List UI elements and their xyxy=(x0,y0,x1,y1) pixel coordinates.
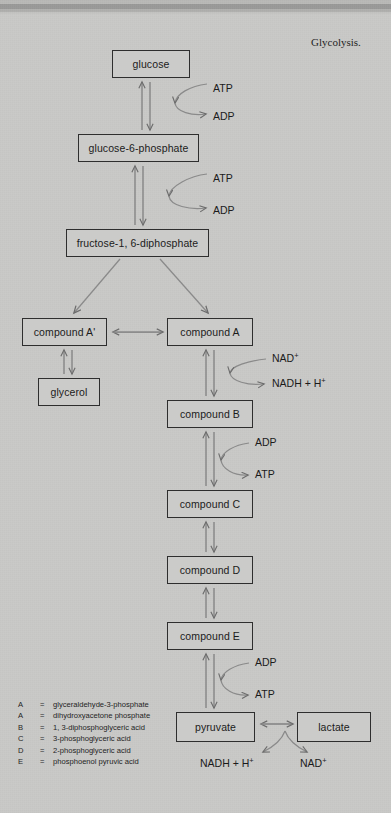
cofactor-nadh-h-plus-1-charge: + xyxy=(321,376,325,385)
legend-equals: = xyxy=(40,734,53,743)
node-lactate[interactable]: lactate xyxy=(297,712,371,742)
legend-value: 1, 3-diphosphoglyceric acid xyxy=(53,723,145,732)
node-glucose[interactable]: glucose xyxy=(112,50,190,78)
cofactor-adp-1: ADP xyxy=(213,110,235,122)
page-title: Glycolysis. xyxy=(311,36,361,48)
legend-value: 3-phosphoglyceric acid xyxy=(53,734,131,743)
node-compound-b[interactable]: compound B xyxy=(167,400,253,428)
cofactor-nadh-h-plus-1-text: NADH + H xyxy=(272,377,321,389)
cofactor-adp-1-text: ADP xyxy=(213,110,235,122)
scan-edge-band-4 xyxy=(0,12,391,14)
legend-row: B = 1, 3-diphosphoglyceric acid xyxy=(18,723,150,734)
cofactor-nad-plus-1-text: NAD xyxy=(272,352,294,364)
wire-fdp-to-compA xyxy=(160,259,208,313)
legend-value: glyceraldehyde-3-phosphate xyxy=(53,700,149,709)
legend-value: dihydroxyacetone phosphate xyxy=(53,711,150,720)
legend-key: A xyxy=(18,711,40,720)
legend-value: phosphoenol pyruvic acid xyxy=(53,757,139,766)
legend-row: E = phosphoenol pyruvic acid xyxy=(18,757,150,768)
legend-key: A xyxy=(18,700,40,709)
node-compound-a-prime[interactable]: compound A' xyxy=(22,318,107,346)
cofactor-nadh-h-plus-2-text: NADH + H xyxy=(200,757,249,769)
cofactor-adp-2: ADP xyxy=(213,204,235,216)
scan-edge-band-3 xyxy=(0,9,391,12)
node-fructose-1-6-diphosphate[interactable]: fructose-1, 6-diphosphate xyxy=(66,229,209,257)
cofactor-nad-plus-2: NAD+ xyxy=(300,757,327,769)
cofactor-nadh-h-plus-2: NADH + H+ xyxy=(200,757,254,769)
wire-adp3-in xyxy=(221,443,249,460)
cofactor-atp-4: ATP xyxy=(255,688,275,700)
scan-edge-band-1 xyxy=(0,0,391,4)
wire-fdp-to-compA-prime xyxy=(74,259,120,313)
cofactor-nad-plus-1-charge: + xyxy=(294,351,298,360)
glycolysis-diagram-page: Glycolysis. glucose glucose-6-phosphate … xyxy=(0,0,391,813)
cofactor-adp-3-text: ADP xyxy=(255,436,277,448)
node-compound-e[interactable]: compound E xyxy=(167,622,253,650)
node-glucose-6-phosphate[interactable]: glucose-6-phosphate xyxy=(78,134,199,162)
wire-adp1-out xyxy=(175,103,206,115)
cofactor-nad-plus-1: NAD+ xyxy=(272,352,299,364)
scan-edge-band-2 xyxy=(0,4,391,9)
legend-key: D xyxy=(18,746,40,755)
legend-key: B xyxy=(18,723,40,732)
cofactor-atp-1: ATP xyxy=(213,82,233,94)
node-compound-d[interactable]: compound D xyxy=(167,556,253,584)
node-compound-a[interactable]: compound A xyxy=(167,318,253,346)
legend-row: C = 3-phosphoglyceric acid xyxy=(18,734,150,745)
wire-nad1-in xyxy=(230,359,266,373)
node-compound-c[interactable]: compound C xyxy=(167,490,253,518)
cofactor-nad-plus-2-charge: + xyxy=(322,756,326,765)
wire-adp4-in xyxy=(221,663,249,680)
node-glycerol[interactable]: glycerol xyxy=(38,378,100,406)
legend-equals: = xyxy=(40,757,53,766)
cofactor-atp-3: ATP xyxy=(255,468,275,480)
wire-nadh2-out xyxy=(263,731,285,752)
cofactor-adp-2-text: ADP xyxy=(213,204,235,216)
wire-atp2-in xyxy=(169,174,207,196)
cofactor-atp-4-text: ATP xyxy=(255,688,275,700)
cofactor-atp-1-text: ATP xyxy=(213,82,233,94)
cofactor-adp-4: ADP xyxy=(255,656,277,668)
cofactor-atp-2-text: ATP xyxy=(213,172,233,184)
legend-equals: = xyxy=(40,711,53,720)
cofactor-adp-3: ADP xyxy=(255,436,277,448)
legend-row: A = glyceraldehyde-3-phosphate xyxy=(18,700,150,711)
legend-row: A = dihydroxyacetone phosphate xyxy=(18,711,150,722)
cofactor-atp-3-text: ATP xyxy=(255,468,275,480)
node-pyruvate[interactable]: pyruvate xyxy=(176,712,255,742)
compound-legend: A = glyceraldehyde-3-phosphate A = dihyd… xyxy=(18,700,150,768)
wire-adp2-out xyxy=(169,196,206,209)
legend-equals: = xyxy=(40,723,53,732)
wire-atp4-out xyxy=(221,680,248,695)
legend-equals: = xyxy=(40,746,53,755)
cofactor-nadh-h-plus-2-charge: + xyxy=(249,756,253,765)
legend-key: C xyxy=(18,734,40,743)
legend-equals: = xyxy=(40,700,53,709)
cofactor-nadh-h-plus-1: NADH + H+ xyxy=(272,377,326,389)
legend-key: E xyxy=(18,757,40,766)
wire-atp1-in xyxy=(175,84,207,103)
wire-nadh1-out xyxy=(230,373,264,384)
cofactor-nad-plus-2-text: NAD xyxy=(300,757,322,769)
legend-value: 2-phosphoglyceric acid xyxy=(53,746,131,755)
cofactor-adp-4-text: ADP xyxy=(255,656,277,668)
legend-row: D = 2-phosphoglyceric acid xyxy=(18,746,150,757)
wire-atp3-out xyxy=(221,460,248,475)
cofactor-atp-2: ATP xyxy=(213,172,233,184)
